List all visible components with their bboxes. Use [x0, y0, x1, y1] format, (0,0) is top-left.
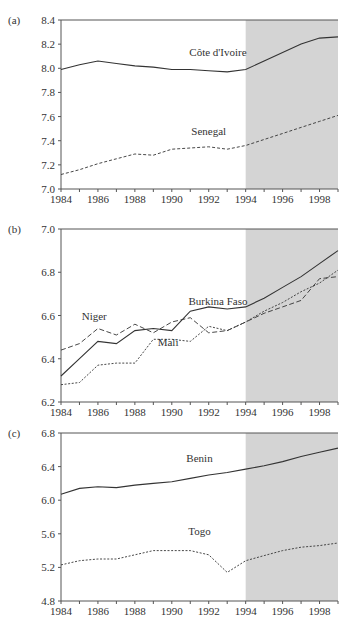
x-tick-label: 1990	[161, 605, 184, 617]
series-label: Togo	[188, 525, 211, 537]
x-tick-label: 1996	[272, 605, 295, 617]
x-tick-label: 1986	[87, 193, 110, 205]
series-label: Benin	[186, 452, 213, 464]
y-tick-label: 6.4	[41, 461, 55, 473]
x-tick-label: 1988	[124, 605, 147, 617]
panel-label: (c)	[8, 427, 21, 440]
shaded-region	[246, 229, 338, 402]
x-tick-label: 1988	[124, 406, 147, 418]
panel-c: (c)4.85.25.66.06.46.81984198619881990199…	[8, 427, 338, 617]
y-tick-label: 8.2	[41, 38, 55, 50]
panel-a: (a)7.07.27.47.67.88.08.28.41984198619881…	[8, 14, 338, 205]
x-tick-label: 1998	[309, 193, 332, 205]
series-label: Senegal	[191, 125, 226, 137]
x-tick-label: 1992	[198, 406, 220, 418]
panel-b: (b)6.26.46.66.87.01984198619881990199219…	[8, 223, 338, 418]
y-tick-label: 7.8	[41, 86, 55, 98]
y-tick-label: 6.0	[41, 494, 55, 506]
y-tick-label: 6.6	[41, 310, 55, 322]
x-tick-label: 1998	[309, 406, 332, 418]
shaded-region	[246, 20, 338, 189]
y-tick-label: 6.8	[41, 266, 55, 278]
x-tick-label: 1998	[309, 605, 332, 617]
figure: (a)7.07.27.47.67.88.08.28.41984198619881…	[0, 0, 358, 631]
x-tick-label: 1996	[272, 193, 295, 205]
panel-label: (b)	[8, 223, 21, 236]
series-label: Mali	[158, 336, 179, 348]
y-tick-label: 8.0	[41, 62, 55, 74]
x-tick-label: 1988	[124, 193, 147, 205]
x-tick-label: 1990	[161, 193, 184, 205]
y-tick-label: 8.4	[41, 14, 55, 26]
series-label: Côte d'Ivoire	[189, 46, 246, 58]
y-tick-label: 7.4	[41, 135, 55, 147]
x-tick-label: 1984	[50, 193, 73, 205]
series-label: Burkina Faso	[188, 295, 247, 307]
y-tick-label: 7.6	[41, 111, 55, 123]
y-tick-label: 5.2	[41, 561, 55, 573]
shaded-region	[246, 433, 338, 601]
x-tick-label: 1992	[198, 193, 220, 205]
x-tick-label: 1992	[198, 605, 220, 617]
y-tick-label: 6.8	[41, 427, 55, 439]
panel-label: (a)	[8, 14, 21, 27]
x-tick-label: 1986	[87, 605, 110, 617]
y-tick-label: 7.2	[41, 159, 55, 171]
x-tick-label: 1984	[50, 605, 73, 617]
x-tick-label: 1990	[161, 406, 184, 418]
x-tick-label: 1984	[50, 406, 73, 418]
x-tick-label: 1994	[235, 406, 258, 418]
y-tick-label: 5.6	[41, 528, 55, 540]
x-tick-label: 1994	[235, 193, 258, 205]
x-tick-label: 1996	[272, 406, 295, 418]
series-label: Niger	[82, 310, 107, 322]
x-tick-label: 1994	[235, 605, 258, 617]
x-tick-label: 1986	[87, 406, 110, 418]
y-tick-label: 7.0	[41, 223, 55, 235]
y-tick-label: 6.4	[41, 353, 55, 365]
